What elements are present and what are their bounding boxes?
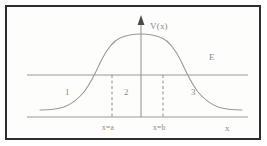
region-label-2: 2 (124, 88, 129, 97)
figure-root: V(x) E 1 2 3 x=a x=b x (0, 0, 267, 146)
region-label-3: 3 (191, 88, 196, 97)
v-axis-arrow-icon (138, 15, 145, 25)
x-axis-label: x (225, 124, 230, 133)
energy-level-label: E (209, 53, 215, 62)
v-axis-label: V(x) (150, 22, 168, 31)
region-label-1: 1 (65, 88, 70, 97)
tick-label-x-equals-a: x=a (102, 124, 114, 132)
tick-label-x-equals-b: x=b (153, 124, 166, 132)
